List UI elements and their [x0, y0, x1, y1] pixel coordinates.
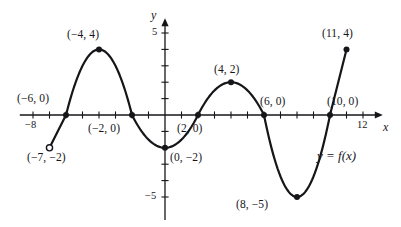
filled-point-marker: [96, 46, 102, 52]
filled-point-marker: [162, 145, 168, 151]
filled-point-marker: [129, 112, 135, 118]
point-label-4-2: (4, 2): [214, 63, 240, 75]
point-label-neg2-0: (−2, 0): [88, 122, 120, 134]
x-axis-arrowhead: [375, 111, 383, 118]
x-tick-label-12: 12: [357, 119, 368, 130]
point-label-10-0: (10, 0): [327, 95, 358, 107]
point-label-8-neg5: (8, −5): [236, 198, 268, 210]
point-label-neg4-4: (−4, 4): [67, 28, 99, 40]
graph-figure: y x −8 12 5 −5 (−7, −2) (−6, 0) (−4, 4) …: [0, 0, 401, 227]
y-axis-label: y: [151, 8, 156, 23]
open-point-marker: [46, 145, 52, 151]
y-axis-arrowhead: [161, 18, 168, 26]
filled-point-marker: [228, 79, 234, 85]
filled-point-marker: [261, 112, 267, 118]
filled-point-marker: [327, 112, 333, 118]
filled-point-marker: [294, 194, 300, 200]
x-axis-label: x: [383, 120, 388, 135]
y-tick-label-neg5: −5: [145, 190, 156, 201]
point-label-6-0: (6, 0): [260, 95, 286, 107]
point-label-11-4: (11, 4): [322, 27, 353, 39]
x-tick-label-neg8: −8: [25, 119, 36, 130]
filled-point-marker: [63, 112, 69, 118]
filled-point-marker: [195, 112, 201, 118]
point-label-neg6-0: (−6, 0): [17, 92, 49, 104]
point-label-neg7-neg2: (−7, −2): [27, 151, 66, 163]
filled-point-marker: [344, 46, 350, 52]
curve-equation-label: y = f(x): [317, 148, 356, 164]
point-label-0-neg2: (0, −2): [170, 151, 202, 163]
y-tick-label-5: 5: [152, 26, 157, 37]
point-label-2-0: (2, 0): [177, 122, 203, 134]
